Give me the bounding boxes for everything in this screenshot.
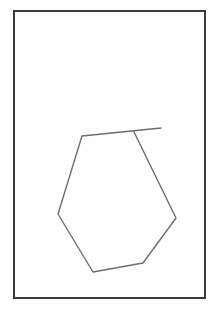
sketch-canvas [0, 0, 213, 318]
hexagon-sketch-outline [58, 128, 176, 272]
drawing-frame [14, 11, 205, 298]
